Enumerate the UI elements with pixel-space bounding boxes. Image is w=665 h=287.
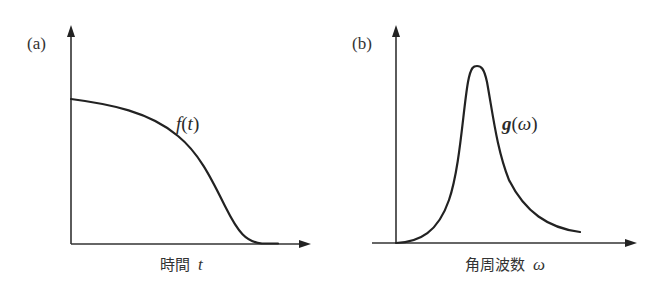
panel-b-label: (b) [352, 34, 372, 53]
figure: (a) f(t) 時間t (b) g(ω) 角周波数ω [0, 0, 665, 287]
panel-b-curve-g [396, 66, 580, 243]
panel-a: (a) f(t) 時間t [27, 25, 311, 274]
panel-b-y-arrow-icon [392, 25, 400, 37]
panel-b: (b) g(ω) 角周波数ω [352, 25, 637, 274]
panel-a-curve-f [71, 99, 278, 244]
panel-a-x-arrow-icon [299, 240, 311, 248]
panel-a-function-label: f(t) [176, 113, 199, 135]
panel-a-label: (a) [27, 34, 46, 53]
panel-a-y-arrow-icon [67, 25, 75, 37]
panel-b-function-label: g(ω) [501, 113, 538, 135]
panel-a-x-axis-label: 時間t [160, 255, 204, 274]
panel-b-x-arrow-icon [625, 239, 637, 247]
panel-b-x-axis-label: 角周波数ω [465, 255, 545, 274]
